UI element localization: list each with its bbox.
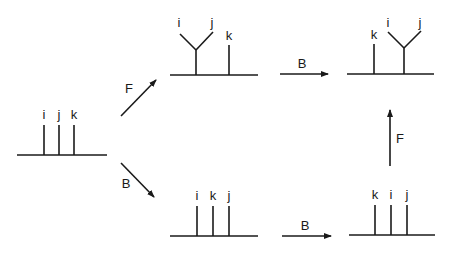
label-k: k xyxy=(226,28,233,43)
label-i: i xyxy=(390,187,393,202)
edge-start-to-top-middle: F xyxy=(121,80,156,116)
label-j: j xyxy=(227,188,231,203)
edge-start-to-bottom-middle: B xyxy=(121,163,154,197)
label-j: j xyxy=(57,107,61,122)
node-start: i j k xyxy=(17,107,107,155)
edge-label: B xyxy=(122,176,131,191)
edge-label: B xyxy=(301,218,310,233)
edge-label: F xyxy=(125,81,133,96)
label-i: i xyxy=(387,15,390,30)
label-j: j xyxy=(210,15,214,30)
edge-top-middle-to-top-right: B xyxy=(280,56,328,74)
branch-i xyxy=(180,34,196,50)
edge-label: F xyxy=(396,131,404,146)
label-i: i xyxy=(178,15,181,30)
edge-label: B xyxy=(298,56,307,71)
branch-j xyxy=(196,32,213,50)
label-k: k xyxy=(71,107,78,122)
diagram-canvas: i j k i j k k i j i k j xyxy=(0,0,456,263)
label-j: j xyxy=(405,187,409,202)
label-i: i xyxy=(43,107,46,122)
node-bottom-right: k i j xyxy=(349,187,435,235)
node-top-right: k i j xyxy=(347,15,434,74)
branch-i xyxy=(388,32,404,48)
edge-bottom-right-to-top-right: F xyxy=(390,110,404,166)
node-bottom-middle: i k j xyxy=(170,188,258,236)
label-k: k xyxy=(372,187,379,202)
label-i: i xyxy=(196,188,199,203)
node-top-middle: i j k xyxy=(170,15,258,75)
branch-j xyxy=(404,31,421,48)
label-j: j xyxy=(418,15,422,30)
label-k: k xyxy=(371,27,378,42)
edge-bottom-middle-to-bottom-right: B xyxy=(282,218,331,236)
label-k: k xyxy=(210,188,217,203)
